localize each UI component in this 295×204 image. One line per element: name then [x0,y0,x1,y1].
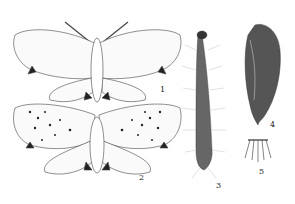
figure-label-3: 3 [216,182,221,190]
larva [182,31,226,178]
cremaster-detail [245,140,271,162]
illustration-plate: 1 2 3 4 5 [0,0,295,204]
moth-life-cycle-drawing [0,0,295,204]
adult-moth-1 [14,22,181,102]
pupa [245,24,280,125]
figure-label-2: 2 [139,174,144,182]
figure-label-1: 1 [160,86,165,94]
figure-label-5: 5 [259,168,264,176]
adult-moth-2 [13,104,181,174]
figure-label-4: 4 [270,121,275,129]
